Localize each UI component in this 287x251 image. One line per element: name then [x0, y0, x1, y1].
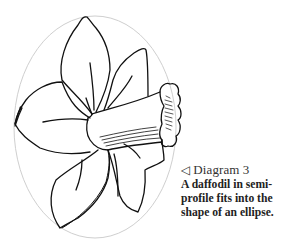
petal-lower-left — [51, 150, 109, 228]
guide-ellipse — [14, 16, 176, 238]
trumpet — [87, 92, 162, 150]
diagram-caption: ◁Diagram 3 A daffodil in semi- profile f… — [181, 163, 287, 220]
petal-left — [15, 82, 90, 154]
pointer-triangle-icon: ◁ — [181, 163, 190, 177]
trumpet-rim — [160, 83, 181, 146]
caption-text: A daffodil in semi- profile fits into th… — [181, 178, 287, 220]
caption-line: A daffodil in semi- — [181, 178, 287, 192]
caption-line: profile fits into the — [181, 192, 287, 206]
diagram-label: ◁Diagram 3 — [181, 163, 287, 177]
diagram-number: Diagram 3 — [193, 162, 249, 177]
caption-line: shape of an ellipse. — [181, 206, 287, 220]
petal-top — [61, 17, 110, 114]
daffodil-drawing — [15, 17, 181, 228]
petal-upper-right — [104, 49, 148, 110]
